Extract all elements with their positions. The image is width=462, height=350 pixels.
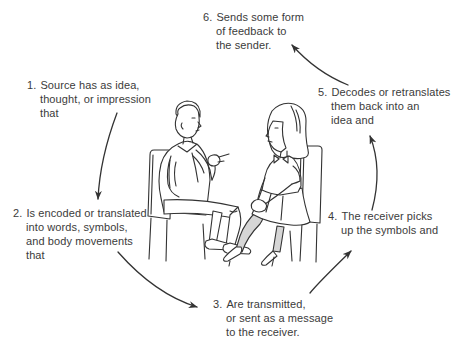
step-text: Decodes or retranslates xyxy=(331,85,450,99)
two-people-conversation-illustration xyxy=(148,101,322,266)
step-line: thought, or impression xyxy=(27,92,151,106)
step-line: idea and xyxy=(318,113,450,127)
arrow-step1-to-step2 xyxy=(98,113,117,199)
man-pointing-finger xyxy=(219,154,229,157)
step-line: and body movements xyxy=(13,234,147,248)
step-line: that xyxy=(27,106,151,120)
step-line: that xyxy=(13,248,147,262)
step-number: 6. xyxy=(203,10,212,24)
step-line: 4. The receiver picks xyxy=(328,209,438,223)
step-6-label: 6. Sends some form of feedback to the se… xyxy=(203,10,304,52)
step-2-label: 2. Is encoded or translated into words, … xyxy=(13,206,147,262)
step-text: Is encoded or translated xyxy=(26,206,146,220)
step-line: 5. Decodes or retranslates xyxy=(318,85,450,99)
step-line: 6. Sends some form xyxy=(203,10,304,24)
step-line: 2. Is encoded or translated xyxy=(13,206,147,220)
step-line: them back into an xyxy=(318,99,450,113)
step-line: 3. Are transmitted, xyxy=(213,297,333,311)
man-figure xyxy=(159,101,251,254)
step-4-label: 4. The receiver picks up the symbols and xyxy=(328,209,438,237)
step-line: or sent as a message xyxy=(213,311,333,325)
step-line: of feedback to xyxy=(203,24,304,38)
step-number: 2. xyxy=(13,206,22,220)
step-number: 3. xyxy=(213,297,222,311)
step-number: 5. xyxy=(318,85,327,99)
step-line: up the symbols and xyxy=(328,223,438,237)
step-text: Sends some form xyxy=(216,10,304,24)
step-line: the sender. xyxy=(203,38,304,52)
step-line: to the receiver. xyxy=(213,325,333,339)
step-text: Source has as idea, xyxy=(40,78,139,92)
step-1-label: 1. Source has as idea, thought, or impre… xyxy=(27,78,151,120)
step-number: 4. xyxy=(328,209,337,223)
step-5-label: 5. Decodes or retranslates them back int… xyxy=(318,85,450,127)
step-text: The receiver picks xyxy=(341,209,432,223)
step-line: into words, symbols, xyxy=(13,220,147,234)
diagram-canvas: 1. Source has as idea, thought, or impre… xyxy=(0,0,462,350)
step-number: 1. xyxy=(27,78,36,92)
step-text: Are transmitted, xyxy=(226,297,305,311)
step-3-label: 3. Are transmitted, or sent as a message… xyxy=(213,297,333,339)
step-line: 1. Source has as idea, xyxy=(27,78,151,92)
arrow-step4-to-step5 xyxy=(370,136,377,210)
woman-figure xyxy=(224,103,311,266)
